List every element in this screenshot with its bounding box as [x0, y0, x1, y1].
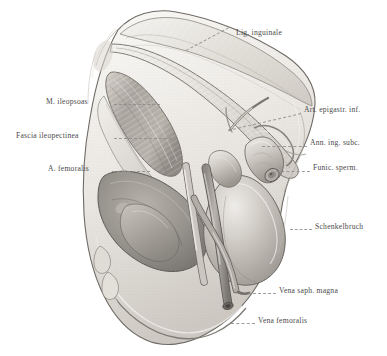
anatomical-figure: [0, 0, 387, 356]
label-schenkelbruch: Schenkelbruch: [315, 223, 363, 231]
label-art-epigastr-inf: Art. epigastr. inf.: [304, 106, 360, 114]
leader-line-fascia-ileopectinea: [114, 138, 172, 139]
label-ann-ing-subc: Ann. ing. subc.: [310, 139, 360, 147]
leader-line-schenkelbruch: [290, 229, 312, 230]
leader-line-ann-ing-subc: [262, 146, 307, 147]
leader-line-a-femoralis: [112, 171, 150, 172]
label-fascia-ileopectinea: Fascia ileopectinea: [16, 132, 79, 140]
label-vena-femoralis: Vena femoralis: [258, 317, 307, 325]
leader-line-vena-saph-magna: [248, 293, 276, 294]
label-funic-sperm: Funic. sperm.: [313, 164, 358, 172]
leader-line-m-ileopsoas: [114, 104, 160, 105]
leader-line-funic-sperm: [276, 171, 310, 172]
anatomical-plate: Lig. inguinale M. ileopsoas Fascia ileop…: [0, 0, 387, 356]
label-a-femoralis: A. femoralis: [48, 165, 89, 173]
label-m-ileopsoas: M. ileopsoas: [46, 98, 88, 106]
label-lig-inguinale: Lig. inguinale: [236, 29, 282, 37]
leader-line-vena-femoralis: [231, 323, 255, 324]
label-vena-saph-magna: Vena saph. magna: [279, 287, 338, 295]
